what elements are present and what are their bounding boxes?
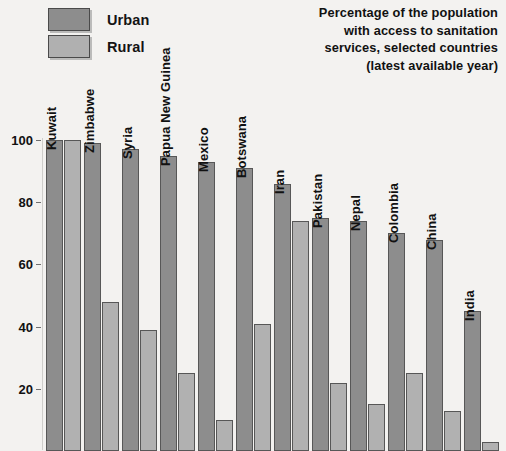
x-axis-category-label: Nepal xyxy=(348,195,363,231)
bar-urban-pakistan xyxy=(312,218,329,451)
x-axis-category-label: Zimbabwe xyxy=(82,89,97,153)
x-axis-category-label: Kuwait xyxy=(44,107,59,150)
x-axis-category-label: Botswana xyxy=(234,116,249,178)
bar-rural-mexico xyxy=(216,420,233,451)
bar-rural-papua-new-guinea xyxy=(178,373,195,451)
bar-rural-iran xyxy=(292,221,309,451)
y-axis-tick-mark xyxy=(36,327,41,328)
y-axis-tick-mark xyxy=(36,264,41,265)
bar-urban-botswana xyxy=(236,168,253,451)
x-axis-category-label: Colombia xyxy=(386,183,401,243)
bar-rural-pakistan xyxy=(330,383,347,451)
bar-urban-mexico xyxy=(198,162,215,451)
bar-rural-botswana xyxy=(254,324,271,451)
bar-rural-nepal xyxy=(368,404,385,451)
x-axis-category-label: Iran xyxy=(272,169,287,193)
x-axis-category-label: Syria xyxy=(120,127,135,159)
bar-urban-nepal xyxy=(350,221,367,451)
x-axis-category-label: China xyxy=(424,213,439,250)
y-axis-tick-mark xyxy=(36,140,41,141)
bar-rural-india xyxy=(482,442,499,451)
bar-urban-colombia xyxy=(388,233,405,451)
bar-urban-india xyxy=(464,311,481,451)
bar-urban-china xyxy=(426,240,443,451)
bar-rural-kuwait xyxy=(64,140,81,451)
bar-rural-china xyxy=(444,411,461,451)
bar-urban-zimbabwe xyxy=(84,143,101,451)
bar-urban-papua-new-guinea xyxy=(160,156,177,451)
y-axis-tick-mark xyxy=(36,389,41,390)
bar-urban-iran xyxy=(274,184,291,451)
bar-urban-kuwait xyxy=(46,140,63,451)
x-axis-category-label: Mexico xyxy=(196,127,211,172)
x-axis-category-label: Papua New Guinea xyxy=(158,47,173,166)
bar-rural-colombia xyxy=(406,373,423,451)
bar-rural-zimbabwe xyxy=(102,302,119,451)
y-axis-tick-mark xyxy=(36,202,41,203)
x-axis-category-label: India xyxy=(462,290,477,321)
x-axis-category-label: Pakistan xyxy=(310,173,325,227)
bar-rural-syria xyxy=(140,330,157,451)
bar-urban-syria xyxy=(122,149,139,451)
